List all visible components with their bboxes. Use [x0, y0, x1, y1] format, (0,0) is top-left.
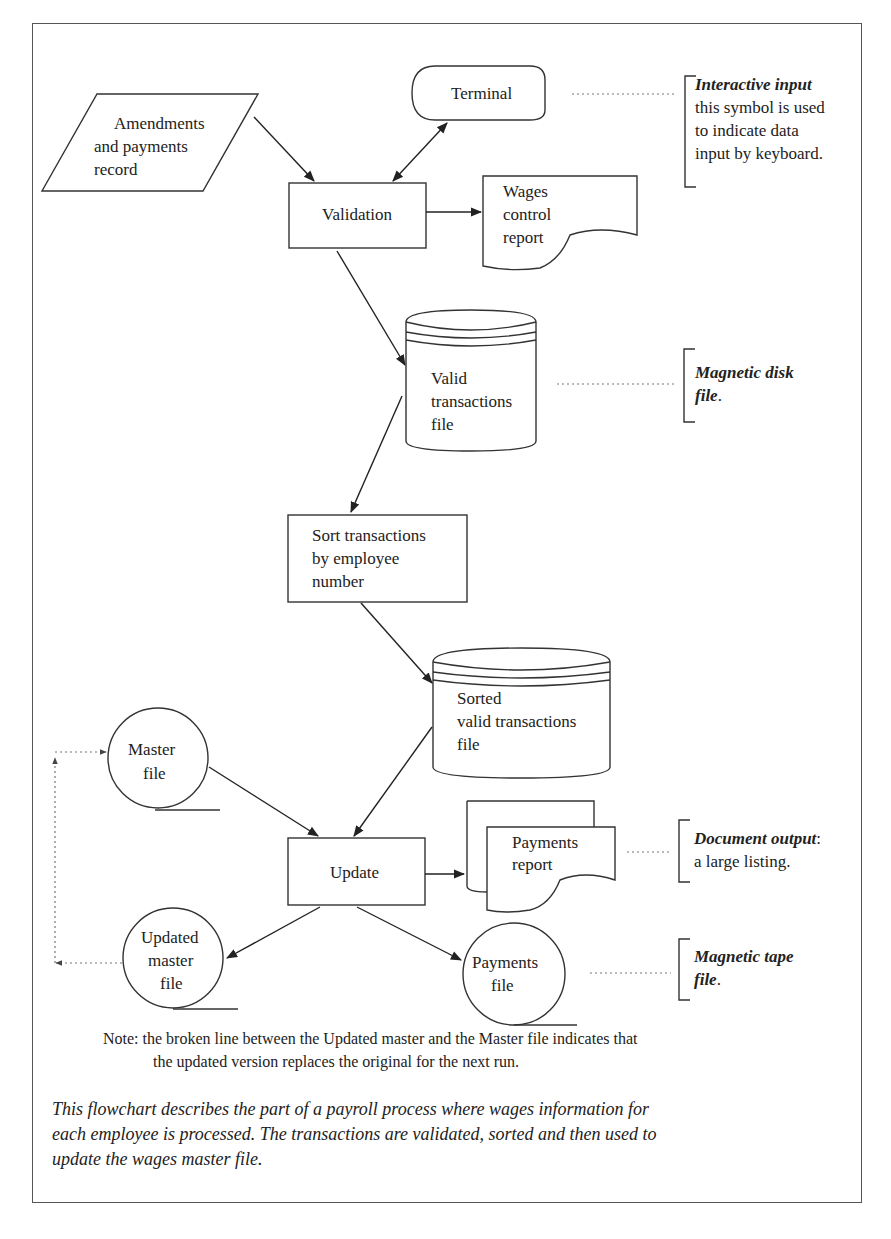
annotation-interactive-line-1: this symbol is used — [695, 96, 825, 119]
edge-terminal-validation — [393, 123, 447, 181]
annotation-document-suffix: : — [816, 829, 821, 848]
wages-report-label-1: Wages — [503, 180, 548, 203]
sort-label-2: by employee — [312, 547, 399, 570]
annotation-interactive-title: Interactive input — [695, 73, 825, 96]
annotation-document-title: Document output — [694, 829, 816, 848]
master-file-label-2: file — [143, 762, 166, 785]
validation-label: Validation — [322, 203, 392, 226]
edge-sort-sorted-transactions — [361, 603, 432, 683]
sort-label-1: Sort transactions — [312, 524, 426, 547]
annotation-disk-title: Magnetic disk — [695, 361, 794, 384]
annotation-magnetic-tape: Magnetic tape file. — [694, 945, 794, 991]
annotation-interactive-line-2: to indicate data — [695, 119, 825, 142]
sorted-transactions-label-1: Sorted — [457, 687, 501, 710]
payments-file-label-2: file — [491, 974, 514, 997]
annotation-document-output: Document output: a large listing. — [694, 827, 821, 873]
annotation-tape-title2: file — [694, 970, 717, 989]
annotation-disk-title2: file — [695, 386, 718, 405]
sort-label-3: number — [312, 570, 364, 593]
edge-validation-valid-transactions — [337, 251, 405, 365]
update-label: Update — [330, 861, 379, 884]
annotation-interactive-input: Interactive input this symbol is used to… — [695, 73, 825, 165]
wages-report-label-2: control — [503, 203, 551, 226]
diagram-note: Note: the broken line between the Update… — [103, 1027, 637, 1073]
amendments-label-1: Amendments — [114, 112, 205, 135]
valid-transactions-disk-shape — [406, 310, 536, 451]
caption-line-3: update the wages master file. — [52, 1147, 832, 1172]
payments-report-label-2: report — [512, 853, 553, 876]
sorted-transactions-label-3: file — [457, 733, 480, 756]
payments-file-tape-shape — [463, 923, 565, 1025]
tape-bracket — [679, 939, 690, 1000]
annotation-magnetic-disk: Magnetic disk file. — [695, 361, 794, 407]
note-line-2: the updated version replaces the origina… — [103, 1050, 637, 1073]
amendments-label-3: record — [94, 158, 137, 181]
annotation-document-line: a large listing. — [694, 850, 821, 873]
disk-bracket — [684, 349, 695, 422]
edge-update-payments-file — [357, 907, 461, 960]
edge-update-updated-master — [227, 907, 320, 958]
payments-file-label-1: Payments — [472, 951, 538, 974]
payments-report-label-1: Payments — [512, 831, 578, 854]
caption-line-1: This flowchart describes the part of a p… — [52, 1097, 832, 1122]
edge-sorted-transactions-update — [354, 727, 432, 836]
wages-report-label-3: report — [503, 226, 544, 249]
valid-transactions-label-3: file — [431, 413, 454, 436]
valid-transactions-label-1: Valid — [431, 367, 467, 390]
updated-master-label-2: master — [148, 949, 193, 972]
amendments-label-2: and payments — [94, 135, 188, 158]
annotation-interactive-line-3: input by keyboard. — [695, 142, 825, 165]
document-bracket — [679, 820, 690, 882]
updated-master-label-3: file — [160, 972, 183, 995]
sorted-transactions-label-2: valid transactions — [457, 710, 576, 733]
edge-amendments-validation — [254, 117, 314, 181]
annotation-tape-suffix: . — [717, 970, 721, 989]
updated-master-label-1: Updated — [141, 926, 199, 949]
terminal-label: Terminal — [451, 82, 512, 105]
note-line-1: Note: the broken line between the Update… — [103, 1027, 637, 1050]
edge-valid-transactions-sort — [351, 396, 402, 512]
annotation-disk-suffix: . — [718, 386, 722, 405]
annotation-tape-title: Magnetic tape — [694, 945, 794, 968]
edge-master-update — [209, 767, 318, 836]
master-file-label-1: Master — [128, 738, 175, 761]
valid-transactions-label-2: transactions — [431, 390, 512, 413]
caption-line-2: each employee is processed. The transact… — [52, 1122, 832, 1147]
figure-caption: This flowchart describes the part of a p… — [52, 1097, 832, 1172]
